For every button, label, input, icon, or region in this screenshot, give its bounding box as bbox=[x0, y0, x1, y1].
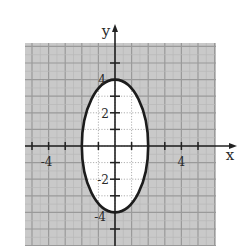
y-axis-arrow-icon bbox=[112, 24, 118, 32]
y-tick-label-neg4: -4 bbox=[94, 210, 106, 224]
ellipse-graph: x y -4 4 4 2 -2 -4 bbox=[0, 0, 252, 246]
y-tick-label-neg2: -2 bbox=[97, 173, 109, 187]
x-tick-label-neg4: -4 bbox=[41, 155, 53, 169]
x-axis-label: y bbox=[101, 22, 111, 40]
y-tick-label-2: 2 bbox=[101, 107, 109, 121]
y-axis-label: x bbox=[226, 146, 235, 164]
x-tick-label-4: 4 bbox=[178, 155, 186, 169]
y-tick-label-4: 4 bbox=[98, 73, 106, 87]
